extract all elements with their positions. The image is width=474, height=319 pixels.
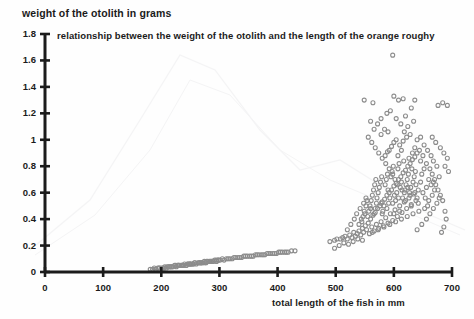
data-point xyxy=(431,159,435,163)
data-point xyxy=(440,230,444,234)
data-point xyxy=(397,196,401,200)
data-point xyxy=(351,240,355,244)
data-point xyxy=(431,207,435,211)
chart-title: relationship between the weight of the o… xyxy=(57,30,435,41)
y-tick-label: 0.2 xyxy=(6,240,36,251)
data-point xyxy=(365,228,369,232)
data-point xyxy=(384,216,388,220)
data-point xyxy=(378,180,382,184)
data-point xyxy=(399,180,403,184)
data-point xyxy=(430,193,434,197)
x-tick-label: 100 xyxy=(83,282,123,293)
data-point xyxy=(403,168,407,172)
data-point xyxy=(385,207,389,211)
data-point xyxy=(436,103,440,107)
data-point xyxy=(375,196,379,200)
plot-canvas xyxy=(0,0,474,319)
data-point xyxy=(383,183,387,187)
data-point xyxy=(387,167,391,171)
data-point xyxy=(443,209,447,213)
data-point xyxy=(403,114,407,118)
data-point xyxy=(370,140,374,144)
data-point xyxy=(349,222,353,226)
data-point xyxy=(345,237,349,241)
data-point xyxy=(422,143,426,147)
data-point xyxy=(424,217,428,221)
x-tick-label: 700 xyxy=(432,282,472,293)
data-point xyxy=(377,185,381,189)
data-point xyxy=(414,183,418,187)
data-point xyxy=(419,135,423,139)
data-point xyxy=(395,191,399,195)
data-point xyxy=(399,175,403,179)
data-point xyxy=(413,170,417,174)
data-point xyxy=(376,191,380,195)
data-point xyxy=(391,164,395,168)
data-point xyxy=(362,201,366,205)
data-point xyxy=(379,220,383,224)
data-point xyxy=(347,242,351,246)
data-point xyxy=(333,246,337,250)
data-point xyxy=(442,225,446,229)
data-point xyxy=(373,146,377,150)
data-point xyxy=(328,240,332,244)
data-point xyxy=(383,197,387,201)
data-point xyxy=(438,146,442,150)
data-point xyxy=(372,127,376,131)
data-point xyxy=(387,201,391,205)
data-point xyxy=(386,130,390,134)
data-point xyxy=(443,164,447,168)
data-point xyxy=(437,175,441,179)
data-point xyxy=(401,97,405,101)
data-point xyxy=(402,130,406,134)
data-point xyxy=(379,117,383,121)
data-point xyxy=(430,135,434,139)
data-point xyxy=(374,201,378,205)
data-point xyxy=(394,138,398,142)
data-point xyxy=(399,217,403,221)
data-point xyxy=(399,148,403,152)
data-point xyxy=(355,212,359,216)
data-point xyxy=(411,212,415,216)
data-point xyxy=(445,156,449,160)
y-tick-label: 0 xyxy=(6,266,36,277)
x-tick-label: 200 xyxy=(141,282,181,293)
data-point xyxy=(405,214,409,218)
data-point xyxy=(428,167,432,171)
data-point xyxy=(398,204,402,208)
data-point xyxy=(408,132,412,136)
data-point xyxy=(445,103,449,107)
data-point xyxy=(372,188,376,192)
data-point xyxy=(435,164,439,168)
x-tick-label: 400 xyxy=(258,282,298,293)
data-point xyxy=(388,109,392,113)
data-point xyxy=(406,125,410,129)
data-point xyxy=(356,237,360,241)
data-point xyxy=(447,170,451,174)
data-point xyxy=(337,244,341,248)
data-point xyxy=(420,222,424,226)
data-point xyxy=(419,180,423,184)
data-point xyxy=(366,221,370,225)
data-point xyxy=(391,53,395,57)
data-point xyxy=(412,119,416,123)
data-point xyxy=(380,156,384,160)
data-point xyxy=(405,177,409,181)
data-point xyxy=(380,175,384,179)
data-point xyxy=(401,139,405,143)
data-point xyxy=(390,144,394,148)
y-tick-label: 1.2 xyxy=(6,107,36,118)
data-point xyxy=(413,155,417,159)
data-point xyxy=(360,238,364,242)
x-tick-label: 0 xyxy=(25,282,65,293)
x-axis-title: total length of the fish in mm xyxy=(272,297,405,308)
data-point xyxy=(410,151,414,155)
data-point xyxy=(369,119,373,123)
data-point xyxy=(373,183,377,187)
data-point xyxy=(409,106,413,110)
y-axis-title: weight of the otolith in grams xyxy=(22,7,171,19)
data-point xyxy=(379,132,383,136)
y-tick-label: 1 xyxy=(6,134,36,145)
x-tick-label: 600 xyxy=(374,282,414,293)
data-point xyxy=(419,159,423,163)
